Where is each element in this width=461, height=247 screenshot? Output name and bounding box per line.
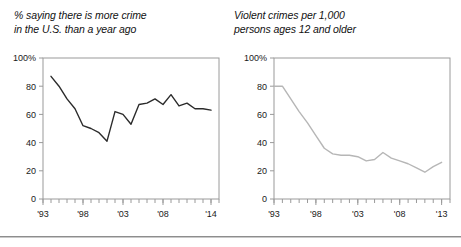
x-axis-tick-label: '98 xyxy=(310,209,322,219)
y-axis-tick-label: 80 xyxy=(26,82,36,92)
x-axis-tick-label: '93 xyxy=(37,209,49,219)
left-chart-title: % saying there is more crime in the U.S.… xyxy=(14,8,219,36)
right-chart-title-line1: Violent crimes per 1,000 xyxy=(234,9,345,21)
left-chart-title-line2: in the U.S. than a year ago xyxy=(14,23,136,35)
y-axis-tick-label: 40 xyxy=(257,138,267,148)
right-chart-plot-area: 020406080100%'93'98'03'08'13 xyxy=(231,52,461,228)
right-chart-title: Violent crimes per 1,000 persons ages 12… xyxy=(234,8,439,36)
y-axis-tick-label: 80 xyxy=(257,82,267,92)
plot-frame xyxy=(274,58,450,199)
x-axis-tick-label: '03 xyxy=(117,209,129,219)
x-axis-tick-label: '93 xyxy=(268,209,280,219)
right-chart-svg: 020406080100%'93'98'03'08'13 xyxy=(231,52,461,228)
right-chart-panel: Violent crimes per 1,000 persons ages 12… xyxy=(231,0,461,228)
y-axis-tick-label: 40 xyxy=(26,138,36,148)
y-axis-tick-label: 0 xyxy=(262,194,267,204)
x-axis-tick-label: '98 xyxy=(77,209,89,219)
left-chart-panel: % saying there is more crime in the U.S.… xyxy=(0,0,230,228)
y-axis-tick-label: 20 xyxy=(26,166,36,176)
left-chart-plot-area: 020406080100%'93'98'03'08'14 xyxy=(0,52,230,228)
left-chart-title-line1: % saying there is more crime xyxy=(14,9,147,21)
data-series-line xyxy=(51,76,211,141)
left-chart-svg: 020406080100%'93'98'03'08'14 xyxy=(0,52,230,228)
y-axis-tick-label: 100% xyxy=(244,53,267,63)
y-axis-tick-label: 60 xyxy=(26,110,36,120)
right-chart-title-line2: persons ages 12 and older xyxy=(234,23,356,35)
x-axis-tick-label: '14 xyxy=(205,209,217,219)
y-axis-tick-label: 20 xyxy=(257,166,267,176)
plot-frame xyxy=(43,58,219,199)
x-axis-tick-label: '08 xyxy=(394,209,406,219)
x-axis-tick-label: '08 xyxy=(157,209,169,219)
bottom-divider-rule xyxy=(0,236,461,239)
x-axis-tick-label: '03 xyxy=(352,209,364,219)
screenshot-root: % saying there is more crime in the U.S.… xyxy=(0,0,461,247)
y-axis-tick-label: 60 xyxy=(257,110,267,120)
data-series-line xyxy=(274,86,442,172)
x-axis-tick-label: '13 xyxy=(436,209,448,219)
y-axis-tick-label: 100% xyxy=(13,53,36,63)
y-axis-tick-label: 0 xyxy=(31,194,36,204)
